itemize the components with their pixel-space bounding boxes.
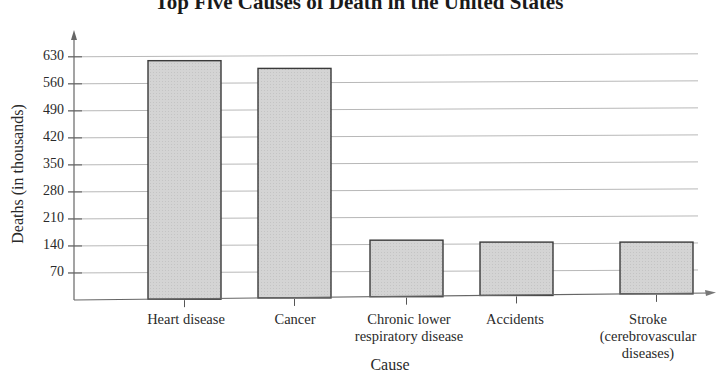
bar: [620, 242, 693, 294]
y-tick-label: 210: [6, 210, 64, 226]
y-tick-label: 630: [6, 48, 64, 64]
bar: [258, 68, 331, 298]
x-tick-label-line: diseases): [568, 345, 718, 362]
x-axis-arrow: [705, 290, 716, 296]
y-tick-label: 140: [6, 237, 64, 253]
y-axis-arrow: [71, 30, 77, 40]
x-tick-label-line: respiratory disease: [329, 328, 489, 345]
y-tick-label: 280: [6, 183, 64, 199]
y-tick-label: 420: [6, 129, 64, 145]
bar: [480, 242, 553, 295]
y-tick-label: 560: [6, 75, 64, 91]
x-tick-label-line: (cerebrovascular: [568, 328, 718, 345]
x-tick-label: Stroke(cerebrovasculardiseases): [568, 311, 718, 362]
y-tick-label: 350: [6, 156, 64, 172]
bar: [370, 240, 443, 297]
bars: [148, 61, 693, 299]
y-tick-label: 490: [6, 102, 64, 118]
gridline: [68, 54, 698, 57]
x-tick-label-line: Stroke: [568, 311, 718, 328]
y-tick-label: 70: [6, 264, 64, 280]
bar: [148, 61, 221, 299]
